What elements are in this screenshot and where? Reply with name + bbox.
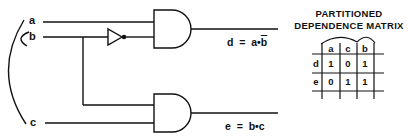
partition-bracket-b	[21, 32, 29, 46]
matrix-cell-d-c: 0	[342, 59, 354, 69]
matrix-col-a: a	[325, 44, 337, 54]
matrix-cell-d-a: 1	[325, 59, 337, 69]
and-gate-e	[154, 94, 191, 132]
not-bubble	[122, 35, 125, 38]
matrix-cell-e-c: 1	[342, 77, 354, 87]
eq-d-equals: =	[239, 36, 245, 48]
matrix-col-c: c	[342, 44, 354, 54]
eq-e-lhs: e	[225, 120, 231, 132]
not-gate	[108, 29, 122, 45]
matrix-col-b: b	[359, 44, 371, 54]
eq-e-term2: c	[259, 120, 265, 132]
input-label-b: b	[29, 31, 36, 42]
eq-d-term2-negated: b	[261, 36, 267, 48]
matrix-title-line2: DEPENDENCE MATRIX	[290, 20, 408, 32]
matrix-title-line1: PARTITIONED	[290, 8, 408, 20]
eq-d-lhs: d	[227, 36, 233, 48]
matrix-cell-e-b: 1	[359, 77, 371, 87]
eq-e-equals: =	[237, 120, 243, 132]
matrix-row-e-label: e	[310, 77, 322, 87]
input-label-c: c	[30, 117, 36, 128]
and-gate-d	[154, 10, 191, 48]
equation-d: d = a•b	[227, 37, 267, 48]
matrix-cell-d-b: 1	[359, 59, 371, 69]
matrix-row-d-label: d	[310, 59, 322, 69]
input-label-a: a	[29, 15, 35, 26]
matrix-cell-e-a: 0	[325, 77, 337, 87]
equation-e: e = b•c	[225, 121, 265, 132]
